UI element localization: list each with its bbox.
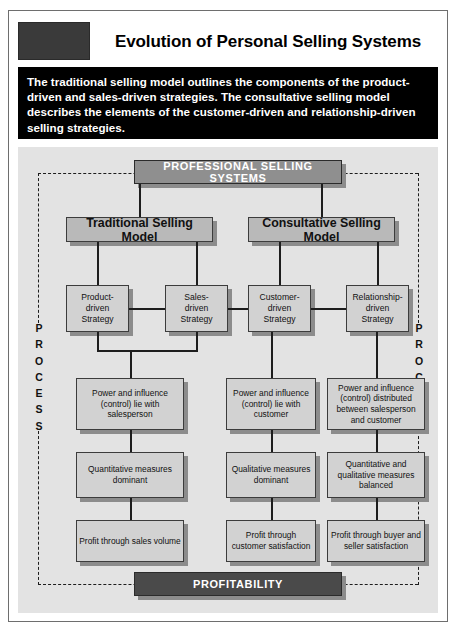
model-header-consultative: Consultative Selling Model xyxy=(248,217,395,242)
process-letter: R xyxy=(35,339,43,350)
connector-product-down xyxy=(97,332,99,350)
process-box-measures-traditional: Quantitative measures dominant xyxy=(76,452,184,498)
process-letter: P xyxy=(35,323,42,334)
connector-traditional-to-product xyxy=(97,242,99,285)
description-block: The traditional selling model outlines t… xyxy=(18,67,438,139)
connector-c3-power-to-measures xyxy=(376,430,378,452)
connector-sales-down xyxy=(196,332,198,350)
connector-banner-to-traditional xyxy=(139,184,141,217)
connector-merge-to-column1 xyxy=(130,350,132,378)
professional-selling-systems-banner: PROFESSIONAL SELLING SYSTEMS xyxy=(134,160,342,184)
process-letter: O xyxy=(415,356,423,367)
connector-consultative-to-relationship xyxy=(377,242,379,285)
process-letter: E xyxy=(35,388,42,399)
connector-traditional-merge-bar xyxy=(97,350,198,352)
strategy-box-customer-driven: Customer- driven Strategy xyxy=(248,285,311,332)
process-letter: C xyxy=(35,372,43,383)
connector-c2-power-to-measures xyxy=(271,430,273,452)
connector-traditional-to-sales xyxy=(196,242,198,285)
process-letter: S xyxy=(35,421,42,432)
process-box-measures-relationship: Quantitative and qualitative measures ba… xyxy=(327,452,425,498)
connector-product-to-sales xyxy=(129,308,165,310)
process-box-power-relationship: Power and influence (control) distribute… xyxy=(327,378,425,430)
strategy-label: Sales- driven Strategy xyxy=(180,292,212,325)
connector-c1-power-to-measures xyxy=(130,430,132,452)
process-border-left-upper xyxy=(38,173,39,323)
strategy-label: Relationship- driven Strategy xyxy=(352,292,402,325)
process-box-measures-customer: Qualitative measures dominant xyxy=(226,452,316,498)
process-border-left-lower xyxy=(38,431,39,585)
connector-banner-to-consultative xyxy=(321,184,323,217)
connector-relationship-to-column3 xyxy=(376,332,378,378)
process-box-profit-customer: Profit through customer satisfaction xyxy=(226,520,316,562)
page-title: Evolution of Personal Selling Systems xyxy=(100,20,436,64)
process-box-profit-traditional: Profit through sales volume xyxy=(76,520,184,562)
connector-consultative-to-customer xyxy=(279,242,281,285)
diagram-panel: P R O C E S S P R O C E S S PROFESSIONAL… xyxy=(18,147,438,613)
process-label-left: P R O C E S S xyxy=(31,323,47,431)
process-box-power-customer: Power and influence (control) lie with c… xyxy=(226,378,316,430)
connector-customer-to-relationship xyxy=(311,308,346,310)
process-box-power-traditional: Power and influence (control) lie with s… xyxy=(76,378,184,430)
page-root: Evolution of Personal Selling Systems Th… xyxy=(0,0,458,632)
process-letter: O xyxy=(35,356,43,367)
strategy-box-relationship-driven: Relationship- driven Strategy xyxy=(346,285,409,332)
process-letter: P xyxy=(415,323,422,334)
connector-customer-to-column2 xyxy=(271,332,273,378)
outer-frame: Evolution of Personal Selling Systems Th… xyxy=(8,10,448,622)
strategy-label: Product- driven Strategy xyxy=(81,292,113,325)
connector-c1-measures-to-profit xyxy=(130,498,132,520)
strategy-label: Customer- driven Strategy xyxy=(259,292,299,325)
profitability-banner: PROFITABILITY xyxy=(134,572,342,596)
connector-c2-measures-to-profit xyxy=(271,498,273,520)
strategy-box-sales-driven: Sales- driven Strategy xyxy=(165,285,228,332)
logo-placeholder-block xyxy=(18,22,90,60)
connector-sales-to-customer xyxy=(228,308,248,310)
connector-c3-measures-to-profit xyxy=(376,498,378,520)
strategy-box-product-driven: Product- driven Strategy xyxy=(66,285,129,332)
process-letter: R xyxy=(415,339,423,350)
title-row: Evolution of Personal Selling Systems xyxy=(18,20,438,64)
process-border-right-upper xyxy=(418,173,419,323)
model-header-traditional: Traditional Selling Model xyxy=(66,217,213,242)
process-letter: S xyxy=(35,404,42,415)
process-box-profit-relationship: Profit through buyer and seller satisfac… xyxy=(327,520,425,562)
